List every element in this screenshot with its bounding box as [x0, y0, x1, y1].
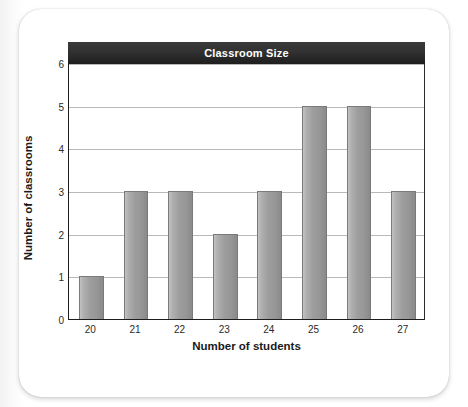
chart-title-bar: Classroom Size [68, 42, 425, 64]
bar [213, 234, 238, 319]
x-tick-label: 26 [353, 324, 364, 335]
y-tick-label: 3 [44, 187, 64, 198]
y-tick-label: 1 [44, 272, 64, 283]
bar [302, 106, 327, 319]
y-axis-label: Number of classrooms [22, 88, 34, 308]
y-tick-label: 4 [44, 144, 64, 155]
x-tick-label: 23 [219, 324, 230, 335]
x-tick-label: 22 [174, 324, 185, 335]
x-axis-label: Number of students [68, 340, 425, 352]
x-tick-label: 21 [129, 324, 140, 335]
bar [168, 191, 193, 319]
y-tick-label: 6 [44, 59, 64, 70]
x-tick-label: 25 [308, 324, 319, 335]
bars-container [69, 64, 424, 319]
x-tick-label: 27 [397, 324, 408, 335]
page-background: Classroom Size 0123456 2021222324252627 … [0, 0, 468, 407]
plot-area [68, 64, 425, 320]
chart-title: Classroom Size [68, 47, 425, 59]
bar [79, 276, 104, 319]
bar [257, 191, 282, 319]
bar [347, 106, 372, 319]
bar-chart-figure: Classroom Size 0123456 2021222324252627 … [0, 0, 468, 407]
x-tick-label: 24 [263, 324, 274, 335]
bar [124, 191, 149, 319]
x-tick-label: 20 [85, 324, 96, 335]
y-tick-label: 2 [44, 229, 64, 240]
y-tick-label: 0 [44, 315, 64, 326]
bar [391, 191, 416, 319]
y-tick-label: 5 [44, 101, 64, 112]
